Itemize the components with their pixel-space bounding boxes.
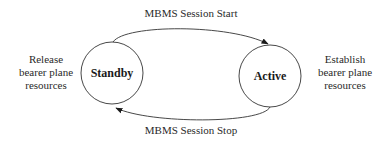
- standby-side-note: Release bearer plane resources: [19, 53, 73, 91]
- active-note-line: resources: [324, 79, 366, 91]
- active-side-note: Establish bearer plane resources: [318, 53, 372, 91]
- standby-note-line: bearer plane: [19, 66, 73, 78]
- transition-label-start: MBMS Session Start: [145, 7, 238, 19]
- standby-note-line: resources: [25, 79, 67, 91]
- state-diagram: MBMS Session Start MBMS Session Stop Sta…: [0, 0, 383, 145]
- transition-arrow-stop: [116, 107, 270, 120]
- active-note-line: Establish: [325, 53, 366, 65]
- standby-note-line: Release: [29, 53, 63, 65]
- active-note-line: bearer plane: [318, 66, 372, 78]
- transition-arrow-start: [113, 29, 268, 44]
- state-active-label: Active: [254, 69, 287, 83]
- transition-label-stop: MBMS Session Stop: [145, 124, 238, 136]
- state-standby-label: Standby: [91, 66, 134, 80]
